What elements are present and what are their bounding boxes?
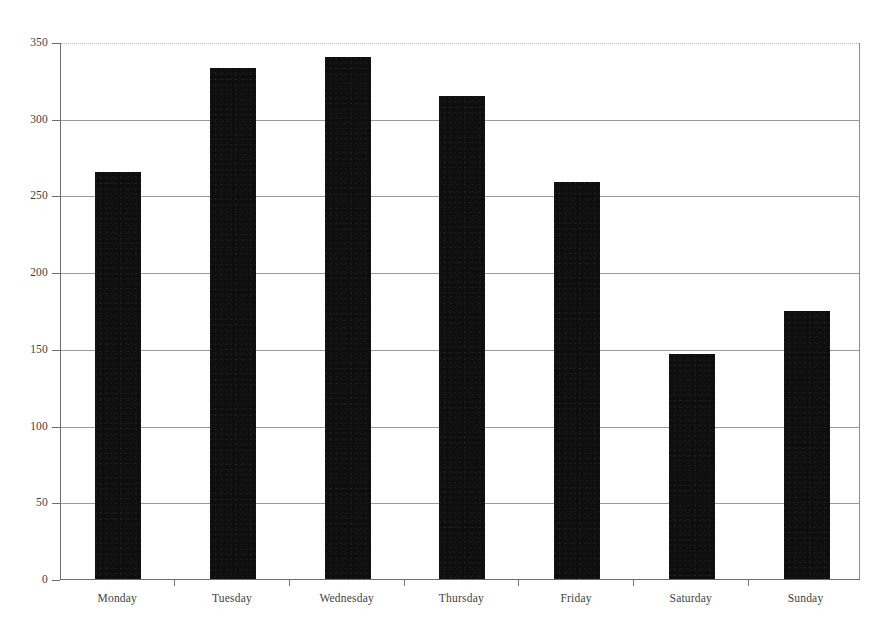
plot-area (60, 43, 860, 580)
y-axis-label-200: 200 (0, 267, 48, 279)
y-axis-label-100: 100 (0, 421, 48, 433)
x-axis-tick-2 (289, 580, 290, 586)
x-axis-tick-1 (174, 580, 175, 586)
gridline-350 (61, 43, 859, 44)
y-axis-tick-350 (52, 43, 60, 44)
y-axis-tick-100 (52, 427, 60, 428)
y-axis-label-250: 250 (0, 190, 48, 202)
bar-chart: 350 300 250 200 150 100 50 0 Monday Tues… (0, 0, 894, 637)
bar-tuesday (210, 68, 256, 579)
y-axis-tick-0 (52, 580, 60, 581)
bar-sunday (784, 311, 830, 580)
x-axis-tick-6 (748, 580, 749, 586)
y-axis-tick-300 (52, 120, 60, 121)
x-axis-tick-3 (404, 580, 405, 586)
bar-friday (554, 182, 600, 579)
y-axis-label-150: 150 (0, 344, 48, 356)
y-axis-label-350: 350 (0, 37, 48, 49)
x-axis-label-sunday: Sunday (736, 592, 876, 605)
bar-saturday (669, 354, 715, 580)
y-axis-label-300: 300 (0, 114, 48, 126)
bar-wednesday (325, 57, 371, 579)
y-axis-tick-50 (52, 503, 60, 504)
y-axis-tick-250 (52, 196, 60, 197)
y-axis-tick-200 (52, 273, 60, 274)
y-axis-tick-150 (52, 350, 60, 351)
bar-monday (95, 172, 141, 579)
bar-thursday (439, 96, 485, 579)
y-axis-label-0: 0 (0, 574, 48, 586)
x-axis-tick-4 (518, 580, 519, 586)
y-axis-label-50: 50 (0, 497, 48, 509)
x-axis-tick-5 (633, 580, 634, 586)
